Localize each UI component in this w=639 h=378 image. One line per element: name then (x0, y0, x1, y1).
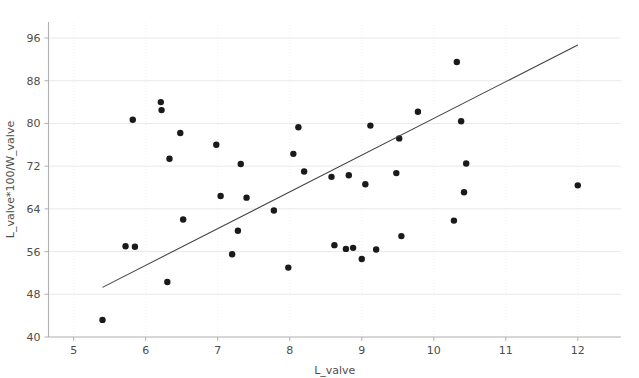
scatter-point (271, 207, 277, 213)
scatter-point (158, 99, 164, 105)
scatter-point (362, 181, 368, 187)
x-tick-label: 11 (499, 344, 513, 357)
scatter-point (463, 160, 469, 166)
y-tick-label: 80 (27, 117, 41, 130)
y-tick-label: 96 (27, 32, 41, 45)
scatter-plot-figure: 404856647280889656789101112 L_valve L_va… (0, 0, 639, 378)
scatter-point (243, 194, 249, 200)
scatter-point (451, 217, 457, 223)
scatter-point (235, 228, 241, 234)
scatter-point (454, 59, 460, 65)
scatter-point (130, 117, 136, 123)
x-tick-label: 9 (358, 344, 365, 357)
scatter-point (158, 107, 164, 113)
scatter-point (393, 170, 399, 176)
scatter-point (132, 244, 138, 250)
y-tick-label: 40 (27, 331, 41, 344)
scatter-point (461, 189, 467, 195)
scatter-point (458, 118, 464, 124)
scatter-point (367, 122, 373, 128)
x-tick-label: 7 (214, 344, 221, 357)
y-tick-label: 48 (27, 288, 41, 301)
scatter-point (343, 246, 349, 252)
y-axis-label: L_valve*100/W_valve (4, 121, 17, 239)
x-tick-label: 5 (70, 344, 77, 357)
scatter-point (213, 142, 219, 148)
scatter-point (166, 155, 172, 161)
scatter-point (301, 168, 307, 174)
scatter-point (285, 264, 291, 270)
y-tick-label: 72 (27, 160, 41, 173)
scatter-point (331, 242, 337, 248)
scatter-point (415, 108, 421, 114)
scatter-point (229, 251, 235, 257)
scatter-point (290, 151, 296, 157)
scatter-point (350, 245, 356, 251)
scatter-point (177, 130, 183, 136)
x-tick-label: 6 (142, 344, 149, 357)
x-tick-label: 12 (571, 344, 585, 357)
scatter-point (217, 193, 223, 199)
scatter-point (346, 172, 352, 178)
scatter-point (295, 124, 301, 130)
x-axis-label: L_valve (314, 364, 355, 377)
scatter-point (238, 161, 244, 167)
y-tick-label: 64 (27, 203, 41, 216)
scatter-point (328, 174, 334, 180)
x-tick-label: 10 (427, 344, 441, 357)
figure-background (0, 0, 639, 378)
scatter-point (164, 279, 170, 285)
scatter-point (398, 233, 404, 239)
x-tick-label: 8 (286, 344, 293, 357)
scatter-point (575, 182, 581, 188)
y-tick-label: 56 (27, 246, 41, 259)
scatter-point (99, 317, 105, 323)
plot-canvas: 404856647280889656789101112 L_valve L_va… (0, 0, 639, 378)
scatter-point (359, 256, 365, 262)
scatter-point (122, 243, 128, 249)
y-tick-label: 88 (27, 75, 41, 88)
scatter-point (180, 216, 186, 222)
scatter-point (373, 246, 379, 252)
